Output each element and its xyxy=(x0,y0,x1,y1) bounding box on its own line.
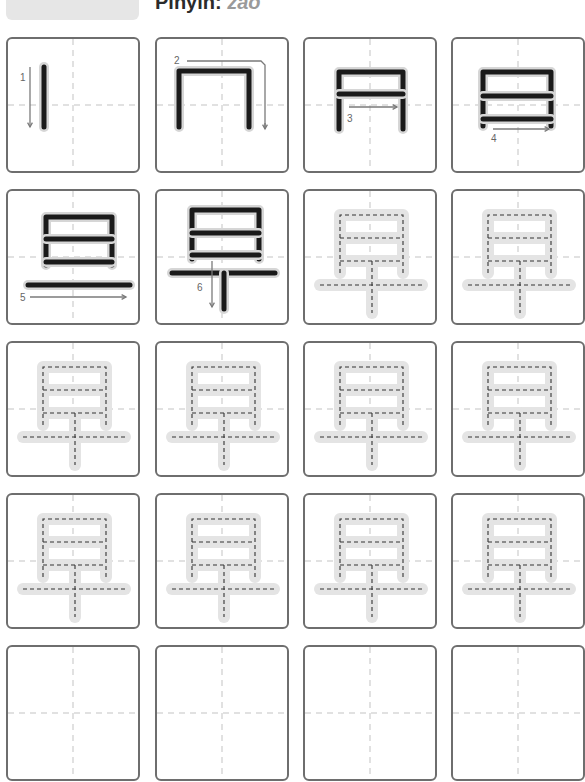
svg-text:6: 6 xyxy=(197,282,203,293)
trace-character-icon xyxy=(453,343,583,475)
trace-cell xyxy=(451,189,585,325)
trace-character-icon xyxy=(157,495,287,627)
stroke-step-cell-1: 1 xyxy=(6,37,140,173)
trace-cell xyxy=(6,341,140,477)
stroke-diagram-icon: 3 xyxy=(305,39,435,171)
trace-character-icon xyxy=(453,495,583,627)
grid-guide-icon xyxy=(453,647,583,779)
trace-character-icon xyxy=(305,343,435,475)
pinyin-value: zǎo xyxy=(227,0,260,13)
stroke-step-cell-2: 2 xyxy=(155,37,289,173)
pinyin-heading: Pinyin: zǎo xyxy=(155,0,261,13)
blank-practice-cell xyxy=(6,645,140,781)
trace-cell xyxy=(303,341,437,477)
trace-cell xyxy=(155,341,289,477)
grid-guide-icon xyxy=(157,647,287,779)
stroke-step-cell-5: 5 xyxy=(6,189,140,325)
trace-cell xyxy=(451,341,585,477)
trace-cell xyxy=(155,493,289,629)
stroke-step-cell-3: 3 xyxy=(303,37,437,173)
pinyin-label: Pinyin: xyxy=(155,0,222,13)
stroke-diagram-icon: 1 xyxy=(8,39,138,171)
trace-cell xyxy=(451,493,585,629)
character-tab xyxy=(6,0,139,20)
trace-cell xyxy=(303,493,437,629)
grid-guide-icon xyxy=(8,647,138,779)
svg-text:1: 1 xyxy=(20,72,26,83)
svg-text:2: 2 xyxy=(174,55,180,66)
stroke-step-cell-4: 4 xyxy=(451,37,585,173)
stroke-diagram-icon: 2 xyxy=(157,39,287,171)
blank-practice-cell xyxy=(451,645,585,781)
stroke-diagram-icon: 5 xyxy=(8,191,138,323)
trace-character-icon xyxy=(305,495,435,627)
trace-character-icon xyxy=(8,343,138,475)
stroke-diagram-icon: 4 xyxy=(453,39,583,171)
grid-guide-icon xyxy=(305,647,435,779)
trace-character-icon xyxy=(8,495,138,627)
trace-cell xyxy=(303,189,437,325)
svg-text:3: 3 xyxy=(347,113,353,124)
trace-character-icon xyxy=(305,191,435,323)
stroke-diagram-icon: 6 xyxy=(157,191,287,323)
trace-character-icon xyxy=(453,191,583,323)
svg-text:4: 4 xyxy=(491,133,497,144)
blank-practice-cell xyxy=(303,645,437,781)
svg-text:5: 5 xyxy=(20,292,26,303)
trace-character-icon xyxy=(157,343,287,475)
stroke-step-cell-6: 6 xyxy=(155,189,289,325)
trace-cell xyxy=(6,493,140,629)
blank-practice-cell xyxy=(155,645,289,781)
